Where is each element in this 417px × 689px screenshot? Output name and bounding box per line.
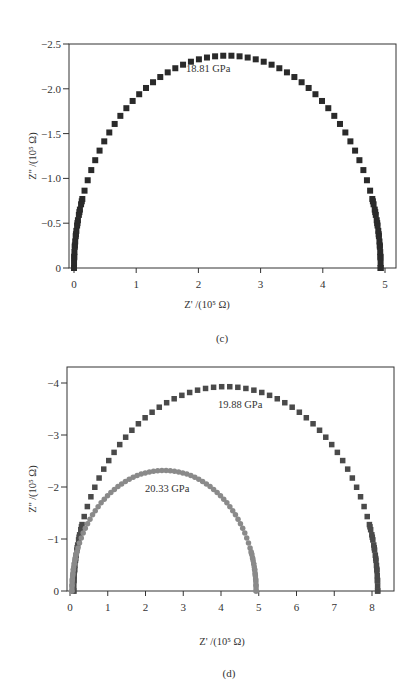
annotation-19-88-gpa: 19.88 GPa — [218, 399, 263, 410]
data-point — [74, 223, 80, 229]
data-point — [373, 212, 379, 218]
chart-d: 012345678 0−1−2−3−4 19.88 GPa 20.33 GPa … — [27, 367, 394, 680]
data-point — [123, 434, 129, 440]
data-point — [377, 254, 383, 260]
data-point — [92, 485, 98, 491]
data-point — [73, 233, 79, 239]
data-point — [360, 167, 366, 173]
data-point — [117, 442, 123, 448]
data-point — [289, 404, 295, 410]
data-point — [345, 466, 351, 472]
data-point — [77, 207, 83, 213]
data-point — [284, 69, 290, 75]
data-point — [267, 393, 273, 399]
data-point — [261, 59, 267, 65]
data-point — [92, 157, 98, 163]
data-point — [312, 91, 318, 97]
x-tick-label: 3 — [181, 601, 187, 613]
data-point — [364, 177, 370, 183]
data-point — [76, 212, 82, 218]
y-tick-label: −4 — [47, 377, 59, 389]
data-point — [204, 55, 210, 61]
data-point — [227, 384, 233, 390]
data-point — [179, 393, 185, 399]
data-point — [71, 260, 77, 266]
x-tick-label: 8 — [369, 601, 375, 613]
data-point — [75, 217, 81, 223]
data-point — [74, 549, 80, 555]
data-point — [150, 79, 156, 85]
data-point — [79, 535, 85, 541]
data-point — [79, 196, 85, 202]
data-point — [111, 450, 117, 456]
data-point — [375, 588, 381, 594]
data-point — [77, 540, 83, 546]
data-point — [358, 494, 364, 500]
x-tick-label: 7 — [332, 601, 338, 613]
data-point — [88, 167, 94, 173]
data-point — [367, 188, 373, 194]
data-point — [96, 475, 102, 481]
data-point — [220, 53, 226, 59]
data-point — [71, 265, 77, 271]
data-point — [106, 458, 112, 464]
data-point — [375, 228, 381, 234]
data-point — [123, 105, 129, 111]
data-point — [149, 409, 155, 415]
data-point — [364, 514, 370, 520]
data-point — [306, 85, 312, 91]
data-point — [350, 475, 356, 481]
data-point — [331, 113, 337, 119]
data-point — [203, 386, 209, 392]
data-point — [237, 53, 243, 59]
data-point — [82, 188, 88, 194]
data-point — [375, 583, 381, 589]
data-point — [246, 540, 252, 546]
plot-frame-c — [69, 44, 396, 268]
data-point — [377, 244, 383, 250]
data-point — [172, 65, 178, 71]
x-tick-label: 1 — [133, 278, 139, 290]
data-point — [85, 504, 91, 510]
data-point — [143, 85, 149, 91]
x-tick-label: 2 — [196, 278, 202, 290]
y-tick-label: 0 — [54, 585, 60, 597]
y-tick-label: −2.0 — [41, 83, 61, 95]
data-point — [235, 385, 241, 391]
x-tick-label: 3 — [258, 278, 264, 290]
data-point — [245, 55, 251, 61]
data-point — [157, 74, 163, 80]
data-point — [248, 549, 254, 555]
data-point — [374, 217, 380, 223]
data-point — [352, 148, 358, 154]
x-axis-ticks-c: 012345 — [71, 268, 388, 290]
y-axis-ticks-c: 0−0.5−1.0−1.5−2.0−2.5 — [41, 38, 69, 274]
data-point — [142, 415, 148, 421]
data-point — [369, 532, 375, 538]
data-point — [291, 74, 297, 80]
y-axis-ticks-d: 0−1−2−3−4 — [47, 377, 67, 597]
data-point — [78, 201, 84, 207]
x-tick-label: 0 — [71, 278, 77, 290]
y-axis-title-c: Z'' /(10⁵ Ω) — [27, 132, 39, 180]
y-tick-label: −1.0 — [41, 172, 61, 184]
data-point — [136, 91, 142, 97]
data-point — [335, 450, 341, 456]
data-point — [370, 537, 376, 543]
data-point — [372, 547, 378, 553]
data-point — [378, 260, 384, 266]
y-tick-label: −1.5 — [41, 128, 61, 140]
data-point — [242, 530, 248, 536]
data-point — [212, 53, 218, 59]
y-tick-label: −1 — [47, 533, 59, 545]
data-point — [378, 265, 384, 271]
data-point — [130, 98, 136, 104]
data-point — [310, 421, 316, 427]
data-point — [71, 249, 77, 255]
data-point — [374, 573, 380, 579]
x-tick-label: 0 — [67, 601, 73, 613]
series-18-81-gpa — [71, 53, 384, 271]
data-point — [187, 390, 193, 396]
data-point — [342, 129, 348, 135]
x-tick-label: 4 — [218, 601, 224, 613]
